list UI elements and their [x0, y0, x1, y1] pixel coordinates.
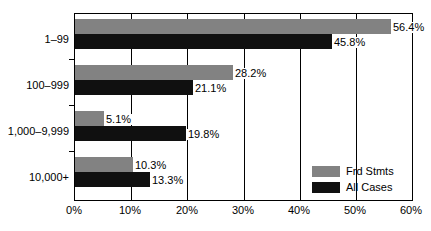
value-label-frd-1-99: 56.4% [392, 22, 425, 33]
legend-label-all-cases: All Cases [346, 182, 392, 193]
value-label-all-1000-9999: 19.8% [187, 129, 220, 140]
y-axis-label-1-99: 1–99 [0, 34, 69, 45]
y-axis-tick-3 [69, 151, 74, 152]
y-axis-tick-1 [69, 59, 74, 60]
value-label-frd-10000-plus: 10.3% [134, 160, 167, 171]
value-label-all-100-999: 21.1% [194, 83, 227, 94]
legend-item-all-cases: All Cases [312, 179, 394, 195]
legend-swatch-icon-frd-stmts [312, 166, 340, 177]
legend-label-frd-stmts: Frd Stmts [346, 166, 394, 177]
y-axis-label-10000-plus: 10,000+ [0, 172, 69, 183]
bar-all-cases-100-999 [75, 80, 193, 95]
bar-frd-stmts-1000-9999 [75, 111, 104, 126]
y-axis-tick-2 [69, 105, 74, 106]
bar-frd-stmts-10000-plus [75, 157, 133, 172]
value-label-frd-1000-9999: 5.1% [105, 114, 132, 125]
value-label-all-10000-plus: 13.3% [151, 175, 184, 186]
bar-all-cases-10000-plus [75, 172, 150, 187]
x-axis-tick-label-40: 40% [288, 205, 310, 216]
legend-item-frd-stmts: Frd Stmts [312, 163, 394, 179]
legend: Frd Stmts All Cases [312, 163, 394, 195]
x-axis-tick-label-50: 50% [344, 205, 366, 216]
x-axis-tick-label-60: 60% [400, 205, 422, 216]
bar-all-cases-1000-9999 [75, 126, 186, 141]
y-axis-label-100-999: 100–999 [0, 80, 69, 91]
x-axis-tick-label-30: 30% [232, 205, 254, 216]
x-axis-tick-label-0: 0% [66, 205, 82, 216]
bar-chart: 56.4% 45.8% 28.2% 21.1% 5.1% 19.8% 10.3%… [0, 0, 431, 231]
legend-swatch-icon-all-cases [312, 182, 340, 193]
bar-frd-stmts-100-999 [75, 65, 233, 80]
value-label-frd-100-999: 28.2% [234, 68, 267, 79]
y-axis-label-1000-9999: 1,000–9,999 [0, 126, 69, 137]
value-label-all-1-99: 45.8% [333, 37, 366, 48]
x-axis-tick-label-20: 20% [176, 205, 198, 216]
x-axis-tick-label-10: 10% [119, 205, 141, 216]
bar-frd-stmts-1-99 [75, 19, 391, 34]
bar-all-cases-1-99 [75, 34, 332, 49]
